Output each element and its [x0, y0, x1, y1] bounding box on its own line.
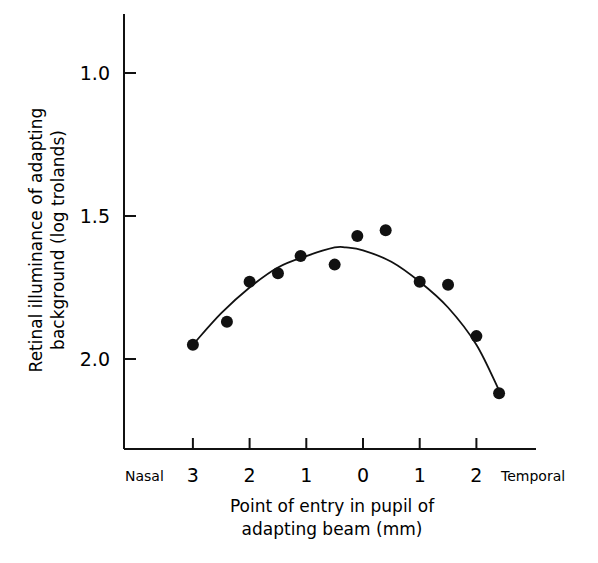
x-tick-label: 2 [470, 464, 482, 486]
x-tick-label: 1 [414, 464, 426, 486]
data-point [244, 276, 256, 288]
data-point [295, 250, 307, 262]
data-points [187, 224, 505, 399]
y-tick-label: 2.0 [80, 348, 110, 370]
data-point [414, 276, 426, 288]
x-tick-label: 0 [357, 464, 369, 486]
data-point [272, 267, 284, 279]
data-point [351, 230, 363, 242]
data-point [470, 330, 482, 342]
data-point [221, 316, 233, 328]
fitted-curve [193, 247, 499, 391]
y-tick-label: 1.0 [80, 62, 110, 84]
y-ticks: 1.01.52.0 [80, 62, 136, 370]
x-tick-label: 1 [300, 464, 312, 486]
data-point [380, 224, 392, 236]
x-tick-label: 2 [244, 464, 256, 486]
x-side-label-temporal: Temporal [500, 468, 565, 484]
x-side-label-nasal: Nasal [125, 468, 164, 484]
x-axis-title-line2: adapting beam (mm) [242, 519, 423, 539]
y-axis-title-line1: Retinal illuminance of adapting [26, 108, 46, 373]
x-tick-label: 3 [187, 464, 199, 486]
y-axis-title-line2: background (log trolands) [48, 130, 68, 350]
axes [124, 14, 536, 449]
data-point [442, 279, 454, 291]
data-point [187, 339, 199, 351]
x-axis-title-line1: Point of entry in pupil of [230, 496, 435, 516]
data-point [329, 259, 341, 271]
y-tick-label: 1.5 [80, 205, 110, 227]
chart: 1.01.52.0 321012 Nasal Temporal Point of… [0, 0, 598, 563]
data-point [493, 387, 505, 399]
x-ticks: 321012 [187, 438, 483, 486]
